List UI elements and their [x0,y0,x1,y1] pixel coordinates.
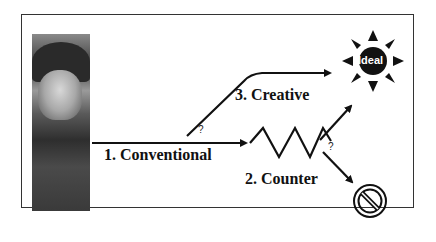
counter-zigzag [250,128,331,157]
prohibited-icon [354,185,386,217]
diagram-arrows [0,0,436,242]
counter-fail-arrow [323,152,352,182]
branch-question-mark-2: ? [328,141,334,152]
counter-success-arrow [320,106,351,140]
ideal-label: Ideal [358,54,383,66]
path-label-creative: 3. Creative [235,86,309,104]
branch-question-mark-1: ? [198,124,204,135]
creative-arrow [187,73,330,136]
path-label-counter: 2. Counter [245,170,318,188]
path-label-conventional: 1. Conventional [104,146,212,164]
